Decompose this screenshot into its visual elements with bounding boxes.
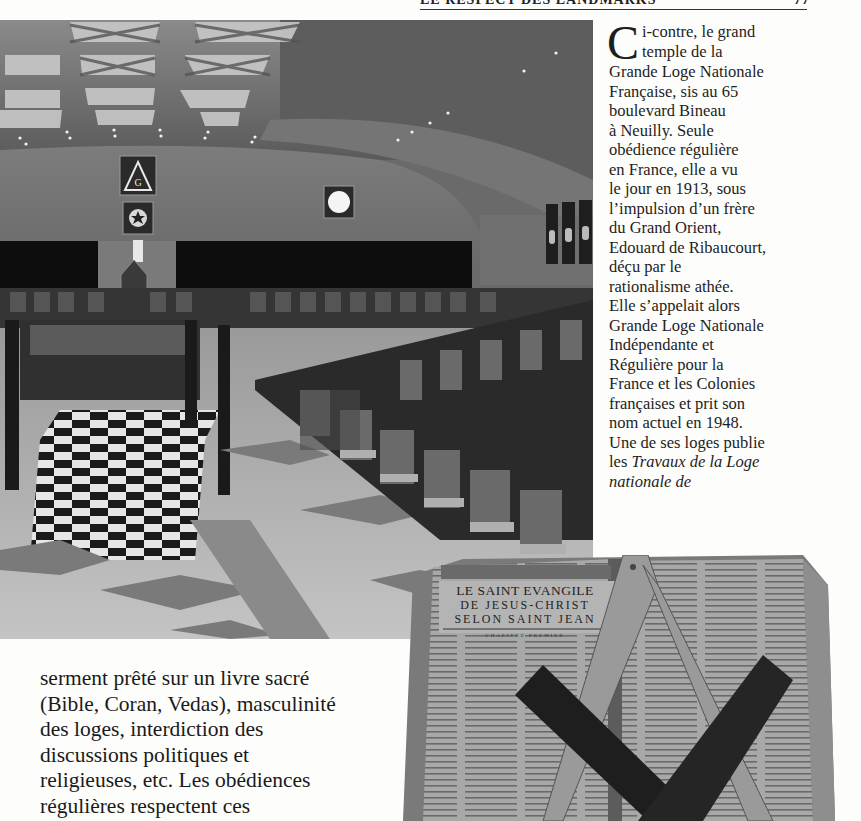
caption-line: Edouard de Ribaucourt, xyxy=(609,238,859,258)
svg-text:G: G xyxy=(134,177,141,188)
caption-line: Une de ses loges publie xyxy=(609,433,859,453)
caption-text: les xyxy=(609,452,631,471)
book-title-line: DE JESUS-CHRIST xyxy=(460,598,590,612)
photo-caption: C i-contre, le grand temple de la Grande… xyxy=(609,22,859,491)
running-header-title: LE RESPECT DES LANDMARKS xyxy=(420,0,657,7)
header-rule xyxy=(420,9,807,10)
body-line: serment prêté sur un livre sacré xyxy=(40,666,410,692)
caption-line: les Travaux de la Loge xyxy=(609,452,859,472)
caption-line: Indépendante et xyxy=(609,335,859,355)
caption-line: le jour en 1913, sous xyxy=(609,179,859,199)
caption-line: en France, elle a vu xyxy=(609,160,859,180)
caption-line: Grande Loge Nationale xyxy=(609,62,859,82)
caption-line: rationalisme athée. xyxy=(609,277,859,297)
caption-line: temple de la xyxy=(609,42,859,62)
caption-line: Régulière pour la xyxy=(609,355,859,375)
caption-line: boulevard Bineau xyxy=(609,101,859,121)
caption-line: obédience régulière xyxy=(609,140,859,160)
caption-line: françaises et prit son xyxy=(609,394,859,414)
caption-line: Grande Loge Nationale xyxy=(609,316,859,336)
caption-line: i-contre, le grand xyxy=(609,22,859,42)
journal-title: Travaux de la Loge xyxy=(631,452,759,471)
body-line: régulières respectent ces xyxy=(40,794,410,820)
caption-line: du Grand Orient, xyxy=(609,218,859,238)
body-line: religieuses, etc. Les obédiences xyxy=(40,768,410,794)
body-text: serment prêté sur un livre sacré (Bible,… xyxy=(40,666,410,819)
running-header: LE RESPECT DES LANDMARKS 77 xyxy=(420,0,810,8)
body-line: des loges, interdiction des xyxy=(40,717,410,743)
body-line: (Bible, Coran, Vedas), masculinité xyxy=(40,692,410,718)
caption-line: nom actuel en 1948. xyxy=(609,413,859,433)
temple-photo: G xyxy=(0,20,593,639)
caption-line: Française, sis au 65 xyxy=(609,82,859,102)
caption-line: à Neuilly. Seule xyxy=(609,121,859,141)
caption-line: France et les Colonies xyxy=(609,374,859,394)
book-photo: LE SAINT EVANGILE DE JESUS-CHRIST SELON … xyxy=(403,555,843,821)
book-title-line: SELON SAINT JEAN xyxy=(454,612,595,626)
caption-line: nationale de xyxy=(609,472,859,492)
page-number: 77 xyxy=(794,0,810,8)
book-title-line: LE SAINT EVANGILE xyxy=(456,583,594,598)
drop-cap: C xyxy=(607,24,639,62)
caption-line: déçu par le xyxy=(609,257,859,277)
caption-line: l’impulsion d’un frère xyxy=(609,199,859,219)
journal-title-cont: nationale de xyxy=(609,472,691,491)
book-chapter: CHAPITRE PREMIER xyxy=(485,633,564,638)
body-line: discussions politiques et xyxy=(40,743,410,769)
caption-line: Elle s’appelait alors xyxy=(609,296,859,316)
